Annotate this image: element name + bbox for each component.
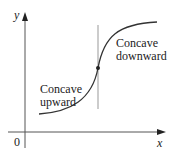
origin-label: 0 [14, 136, 20, 149]
x-axis-label: x [157, 136, 162, 151]
concave-downward-label: Concave downward [116, 37, 167, 63]
concave-upward-label: Concave upward [40, 83, 82, 109]
y-axis-arrow-icon [22, 12, 28, 21]
concave-downward-line2: downward [116, 50, 167, 63]
y-axis-label: y [14, 8, 19, 23]
concave-upward-line2: upward [40, 96, 82, 109]
x-axis-arrow-icon [157, 129, 166, 135]
inflection-point-dot [96, 66, 100, 70]
inflection-diagram [0, 0, 176, 158]
